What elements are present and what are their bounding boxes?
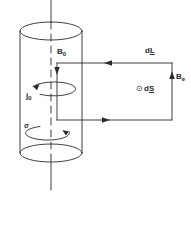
- label-j0-current-density: j0: [26, 92, 32, 100]
- rotation-arrow-lower-icon: [62, 130, 69, 136]
- label-ds-area-element: ⊙dS: [136, 85, 154, 93]
- label-be-external-field: Be: [176, 73, 185, 81]
- rotation-arc-lower: [26, 127, 70, 141]
- rotation-arc-upper: [33, 82, 76, 96]
- loop-circulation-arrows: [54, 60, 174, 123]
- circled-dot-out-of-page-icon: ⊙: [136, 84, 143, 93]
- loop-arrow-top-left-icon: [104, 60, 112, 66]
- label-b0-internal-field: B0: [57, 48, 66, 56]
- loop-arrow-bottom-right-icon: [102, 117, 110, 123]
- physics-figure-canvas: B0 j0 σ dL Be ⊙dS: [0, 0, 191, 245]
- loop-arrow-right-up-icon: [169, 71, 174, 79]
- loop-arrow-left-down-icon: [54, 67, 59, 75]
- label-dl-line-element: dL: [145, 47, 155, 55]
- label-sigma-surface-charge: σ: [24, 122, 29, 129]
